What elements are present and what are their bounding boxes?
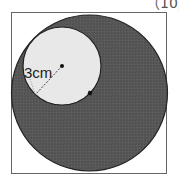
radius-label: 3cm <box>24 64 52 81</box>
circle-diagram: 3cm <box>0 0 179 182</box>
inner-center-dot <box>60 64 64 68</box>
